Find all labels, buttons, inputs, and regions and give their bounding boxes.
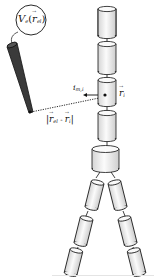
compartment-3-target — [98, 77, 116, 106]
bubble-connector — [11, 32, 18, 43]
electrode-position-symbol: r — [32, 14, 37, 24]
right-leg-segment-1 — [108, 179, 128, 212]
torso-compartment — [92, 146, 119, 179]
left-leg-segment-3 — [64, 247, 83, 277]
compartment-2 — [98, 41, 116, 74]
position-dot — [103, 93, 106, 96]
position-subscript: i — [123, 92, 125, 98]
right-leg — [108, 179, 147, 277]
bottom-border — [52, 275, 154, 276]
potential-label: Ve(rel) — [18, 14, 45, 24]
current-subscript: m,i — [76, 86, 84, 92]
distance-label: |rel - ri| — [46, 115, 74, 124]
paren-close: ) — [41, 13, 45, 24]
left-leg-segment-2 — [74, 215, 94, 248]
compartment-1 — [98, 6, 116, 38]
distance-electrode-symbol: r — [49, 115, 53, 124]
minus-sign: - — [58, 116, 65, 124]
left-leg — [64, 179, 105, 277]
current-label: im,i — [73, 84, 84, 92]
electrode — [6, 41, 33, 113]
right-leg-segment-3 — [127, 247, 146, 277]
compartment-4 — [98, 110, 116, 141]
distance-compartment-symbol: r — [65, 115, 69, 124]
right-leg-segment-2 — [118, 215, 138, 248]
position-symbol: r — [119, 89, 123, 98]
spine-compartments — [98, 6, 116, 146]
neuron-diagram: Ve(rel) im,i ri |rel - ri| — [0, 0, 154, 277]
left-leg-segment-1 — [85, 179, 105, 212]
diagram-canvas — [0, 0, 154, 277]
abs-bar-right: | — [71, 114, 74, 124]
position-label: ri — [119, 89, 125, 98]
